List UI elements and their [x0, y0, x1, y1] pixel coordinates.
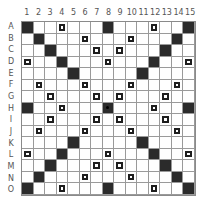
box-marked-cell[interactable] — [183, 149, 195, 161]
board-cell[interactable] — [80, 160, 92, 172]
board-cell[interactable] — [114, 80, 126, 92]
board-cell[interactable] — [103, 34, 115, 46]
board-cell[interactable] — [103, 114, 115, 126]
board-cell[interactable] — [45, 34, 57, 46]
board-cell[interactable] — [137, 91, 149, 103]
board-cell[interactable] — [45, 183, 57, 195]
board-cell[interactable] — [172, 57, 184, 69]
board-cell[interactable] — [172, 149, 184, 161]
black-square-cell[interactable] — [45, 160, 57, 172]
board-cell[interactable] — [68, 103, 80, 115]
board-cell[interactable] — [114, 22, 126, 34]
board-cell[interactable] — [57, 160, 69, 172]
black-square-cell[interactable] — [34, 34, 46, 46]
board-cell[interactable] — [80, 114, 92, 126]
board-cell[interactable] — [126, 103, 138, 115]
board-cell[interactable] — [34, 114, 46, 126]
black-square-cell[interactable] — [137, 68, 149, 80]
board-cell[interactable] — [160, 183, 172, 195]
board-cell[interactable] — [103, 68, 115, 80]
board-cell[interactable] — [34, 160, 46, 172]
board-cell[interactable] — [183, 91, 195, 103]
board-cell[interactable] — [57, 45, 69, 57]
board-cell[interactable] — [137, 172, 149, 184]
board-cell[interactable] — [114, 149, 126, 161]
board-cell[interactable] — [137, 57, 149, 69]
board-cell[interactable] — [137, 149, 149, 161]
board-cell[interactable] — [80, 22, 92, 34]
box-marked-cell[interactable] — [103, 57, 115, 69]
board-cell[interactable] — [57, 172, 69, 184]
black-square-cell[interactable] — [34, 172, 46, 184]
board-cell[interactable] — [160, 172, 172, 184]
black-square-cell[interactable] — [137, 137, 149, 149]
box-marked-cell[interactable] — [91, 114, 103, 126]
black-square-cell[interactable] — [149, 149, 161, 161]
board-cell[interactable] — [126, 45, 138, 57]
board-cell[interactable] — [149, 172, 161, 184]
board-cell[interactable] — [137, 183, 149, 195]
board-cell[interactable] — [68, 172, 80, 184]
board-cell[interactable] — [91, 137, 103, 149]
box-marked-cell[interactable] — [57, 22, 69, 34]
board-cell[interactable] — [34, 91, 46, 103]
box-marked-cell[interactable] — [126, 172, 138, 184]
box-marked-cell[interactable] — [114, 91, 126, 103]
board-cell[interactable] — [91, 149, 103, 161]
board-cell[interactable] — [149, 68, 161, 80]
board-cell[interactable] — [114, 103, 126, 115]
board-cell[interactable] — [57, 80, 69, 92]
board-cell[interactable] — [183, 126, 195, 138]
black-square-cell[interactable] — [172, 172, 184, 184]
box-marked-cell[interactable] — [114, 45, 126, 57]
black-square-cell[interactable] — [183, 22, 195, 34]
box-marked-cell[interactable] — [103, 149, 115, 161]
board-cell[interactable] — [160, 57, 172, 69]
black-square-cell[interactable] — [68, 68, 80, 80]
board-cell[interactable] — [183, 68, 195, 80]
board-cell[interactable] — [183, 160, 195, 172]
black-square-cell[interactable] — [22, 103, 34, 115]
board-cell[interactable] — [137, 45, 149, 57]
board-cell[interactable] — [126, 183, 138, 195]
board-cell[interactable] — [149, 137, 161, 149]
board-cell[interactable] — [68, 160, 80, 172]
box-marked-cell[interactable] — [126, 126, 138, 138]
board-cell[interactable] — [114, 57, 126, 69]
box-marked-cell[interactable] — [91, 45, 103, 57]
board-cell[interactable] — [45, 22, 57, 34]
board-cell[interactable] — [172, 91, 184, 103]
box-marked-cell[interactable] — [34, 80, 46, 92]
box-marked-cell[interactable] — [91, 160, 103, 172]
box-marked-cell[interactable] — [183, 57, 195, 69]
board-cell[interactable] — [91, 126, 103, 138]
board-cell[interactable] — [80, 57, 92, 69]
box-marked-cell[interactable] — [22, 149, 34, 161]
board-cell[interactable] — [126, 57, 138, 69]
board-cell[interactable] — [22, 137, 34, 149]
board-cell[interactable] — [149, 91, 161, 103]
board-cell[interactable] — [160, 137, 172, 149]
black-square-cell[interactable] — [45, 45, 57, 57]
black-square-cell[interactable] — [160, 160, 172, 172]
board-cell[interactable] — [22, 34, 34, 46]
board-cell[interactable] — [45, 149, 57, 161]
board-cell[interactable] — [34, 149, 46, 161]
black-square-cell[interactable] — [149, 57, 161, 69]
board-cell[interactable] — [160, 34, 172, 46]
board-cell[interactable] — [80, 183, 92, 195]
board-cell[interactable] — [160, 126, 172, 138]
box-marked-cell[interactable] — [80, 126, 92, 138]
board-cell[interactable] — [22, 172, 34, 184]
board-cell[interactable] — [68, 91, 80, 103]
black-square-cell[interactable] — [183, 183, 195, 195]
board-cell[interactable] — [91, 183, 103, 195]
board-cell[interactable] — [34, 137, 46, 149]
center-star-cell[interactable] — [103, 103, 115, 115]
board-cell[interactable] — [57, 137, 69, 149]
black-square-cell[interactable] — [160, 45, 172, 57]
board-cell[interactable] — [114, 126, 126, 138]
board-cell[interactable] — [183, 114, 195, 126]
board-cell[interactable] — [183, 34, 195, 46]
board-cell[interactable] — [57, 68, 69, 80]
